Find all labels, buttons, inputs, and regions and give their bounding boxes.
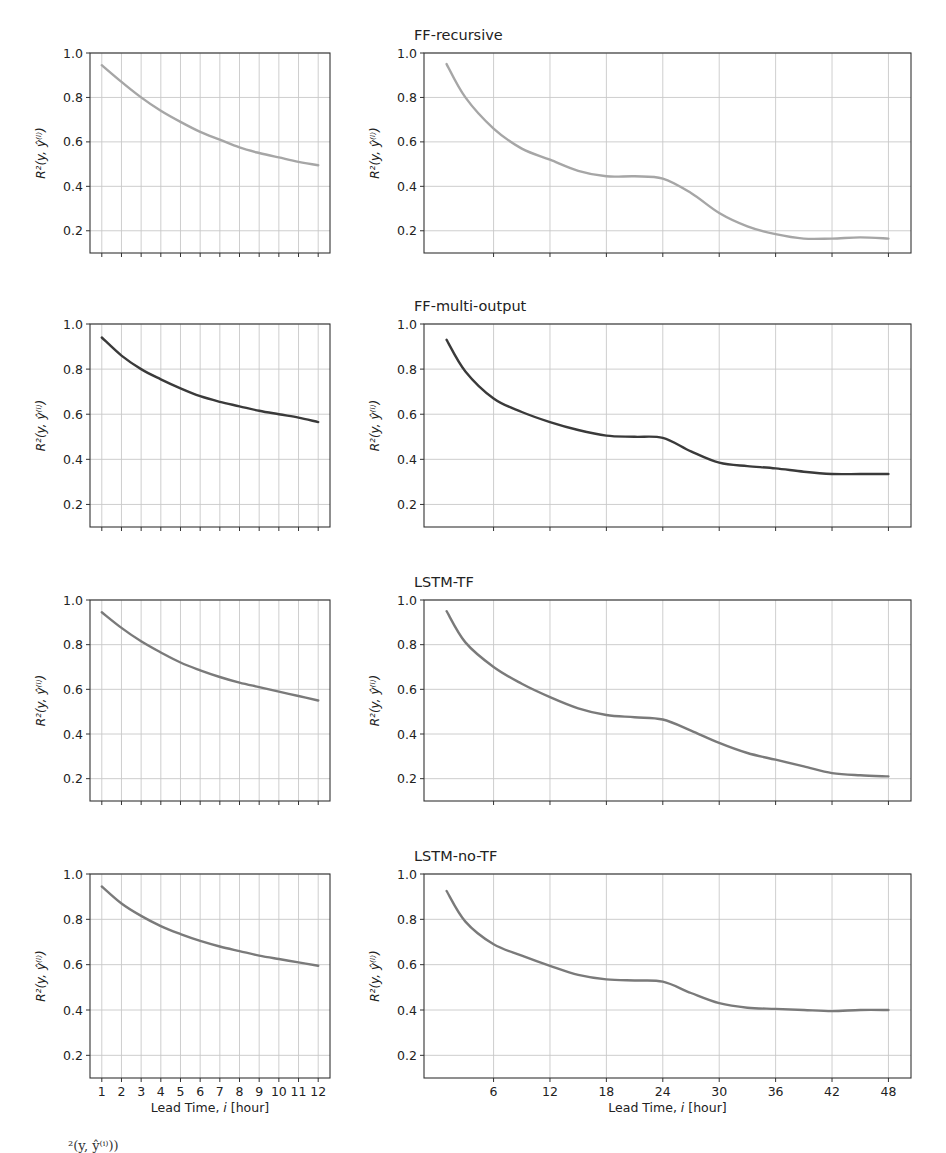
tick-marks bbox=[86, 53, 318, 257]
y-axis-label: R²(y, ŷ⁽ⁱ⁾) bbox=[368, 675, 382, 726]
x-tick-label: 3 bbox=[137, 1084, 145, 1099]
y-tick-label: 1.0 bbox=[397, 593, 417, 608]
y-tick-label: 0.8 bbox=[397, 90, 417, 105]
caption-fragment: ²(y, ŷ⁽ⁱ⁾)) bbox=[68, 1138, 119, 1153]
x-tick-label: 12 bbox=[542, 1084, 558, 1099]
x-tick-label: 8 bbox=[236, 1084, 244, 1099]
y-axis-label: R²(y, ŷ⁽ⁱ⁾) bbox=[368, 950, 382, 1001]
y-tick-label: 0.6 bbox=[397, 957, 417, 972]
y-tick-label: 0.2 bbox=[397, 497, 417, 512]
y-tick-label: 0.6 bbox=[397, 682, 417, 697]
series-line bbox=[447, 611, 889, 776]
y-tick-label: 0.8 bbox=[397, 912, 417, 927]
y-tick-label: 0.6 bbox=[397, 407, 417, 422]
y-tick-label: 0.8 bbox=[63, 637, 83, 652]
y-tick-label: 0.8 bbox=[397, 637, 417, 652]
tick-marks bbox=[420, 874, 888, 1082]
x-axis-label: Lead Time, i [hour] bbox=[608, 1100, 726, 1115]
y-tick-label: 0.8 bbox=[397, 362, 417, 377]
panel-title: LSTM-TF bbox=[414, 574, 474, 590]
x-tick-label: 4 bbox=[157, 1084, 165, 1099]
chart-panel-row2-left: 0.20.40.60.81.0R²(y, ŷ⁽ⁱ⁾) bbox=[34, 317, 330, 532]
x-tick-label: 6 bbox=[196, 1084, 204, 1099]
axes-frame bbox=[424, 600, 911, 801]
series-line bbox=[102, 65, 318, 165]
y-tick-label: 0.2 bbox=[63, 223, 83, 238]
x-tick-label: 30 bbox=[711, 1084, 727, 1099]
x-tick-label: 36 bbox=[768, 1084, 784, 1099]
y-tick-label: 0.2 bbox=[63, 1048, 83, 1063]
x-tick-label: 6 bbox=[490, 1084, 498, 1099]
chart-panel-row4-left: 0.20.40.60.81.0123456789101112Lead Time,… bbox=[34, 867, 330, 1116]
y-axis-label: R²(y, ŷ⁽ⁱ⁾) bbox=[34, 675, 48, 726]
y-tick-label: 0.6 bbox=[63, 407, 83, 422]
grid-lines bbox=[90, 324, 330, 527]
y-tick-label: 0.4 bbox=[397, 452, 417, 467]
y-tick-label: 0.8 bbox=[63, 362, 83, 377]
x-tick-label: 18 bbox=[598, 1084, 614, 1099]
y-tick-label: 0.4 bbox=[63, 452, 83, 467]
series-line bbox=[102, 887, 318, 966]
grid-lines bbox=[90, 874, 330, 1078]
y-axis-label: R²(y, ŷ⁽ⁱ⁾) bbox=[368, 127, 382, 178]
series-line bbox=[102, 338, 318, 423]
chart-panel-row1-left: 0.20.40.60.81.0R²(y, ŷ⁽ⁱ⁾) bbox=[34, 46, 330, 258]
tick-marks bbox=[86, 600, 318, 805]
y-tick-label: 0.6 bbox=[63, 957, 83, 972]
series-line bbox=[447, 340, 889, 474]
axes-frame bbox=[424, 874, 911, 1078]
axes-frame bbox=[424, 324, 911, 527]
axes-frame bbox=[424, 53, 911, 253]
y-tick-label: 1.0 bbox=[63, 317, 83, 332]
x-tick-label: 10 bbox=[271, 1084, 287, 1099]
grid-lines bbox=[424, 874, 911, 1078]
panel-title: LSTM-no-TF bbox=[414, 848, 497, 864]
axes-frame bbox=[90, 53, 330, 253]
y-tick-label: 0.4 bbox=[63, 1003, 83, 1018]
y-tick-label: 1.0 bbox=[397, 46, 417, 61]
y-tick-label: 0.2 bbox=[63, 497, 83, 512]
y-tick-label: 1.0 bbox=[397, 867, 417, 882]
tick-marks bbox=[420, 324, 888, 531]
grid-lines bbox=[424, 53, 911, 253]
chart-panel-row4-right: 0.20.40.60.81.0612182430364248Lead Time,… bbox=[368, 848, 911, 1115]
y-tick-label: 0.8 bbox=[63, 90, 83, 105]
grid-lines bbox=[424, 324, 911, 527]
x-tick-label: 9 bbox=[255, 1084, 263, 1099]
tick-marks bbox=[86, 874, 318, 1082]
y-tick-label: 0.4 bbox=[63, 727, 83, 742]
y-tick-label: 1.0 bbox=[397, 317, 417, 332]
x-tick-label: 42 bbox=[824, 1084, 840, 1099]
chart-panel-row3-right: 0.20.40.60.81.0R²(y, ŷ⁽ⁱ⁾)LSTM-TF bbox=[368, 574, 911, 805]
chart-panel-row1-right: 0.20.40.60.81.0R²(y, ŷ⁽ⁱ⁾)FF-recursive bbox=[368, 27, 911, 257]
y-tick-label: 0.2 bbox=[63, 771, 83, 786]
grid-lines bbox=[424, 600, 911, 801]
y-tick-label: 0.8 bbox=[63, 912, 83, 927]
x-axis-label: Lead Time, i [hour] bbox=[151, 1100, 269, 1115]
tick-marks bbox=[420, 53, 888, 257]
y-axis-label: R²(y, ŷ⁽ⁱ⁾) bbox=[368, 400, 382, 451]
chart-panel-row3-left: 0.20.40.60.81.0R²(y, ŷ⁽ⁱ⁾) bbox=[34, 593, 330, 806]
axes-frame bbox=[90, 324, 330, 527]
x-tick-label: 24 bbox=[655, 1084, 671, 1099]
y-tick-label: 0.4 bbox=[397, 1003, 417, 1018]
panel-title: FF-recursive bbox=[414, 27, 503, 43]
y-tick-label: 1.0 bbox=[63, 867, 83, 882]
y-tick-label: 0.4 bbox=[397, 727, 417, 742]
x-tick-label: 11 bbox=[291, 1084, 307, 1099]
axes-frame bbox=[90, 874, 330, 1078]
x-tick-label: 5 bbox=[177, 1084, 185, 1099]
tick-marks bbox=[420, 600, 888, 805]
x-tick-label: 1 bbox=[98, 1084, 106, 1099]
panel-title: FF-multi-output bbox=[414, 298, 527, 314]
x-tick-label: 7 bbox=[216, 1084, 224, 1099]
y-tick-label: 0.6 bbox=[63, 682, 83, 697]
y-tick-label: 0.6 bbox=[397, 134, 417, 149]
y-axis-label: R²(y, ŷ⁽ⁱ⁾) bbox=[34, 950, 48, 1001]
x-tick-label: 12 bbox=[310, 1084, 326, 1099]
series-line bbox=[102, 612, 318, 700]
chart-panel-row2-right: 0.20.40.60.81.0R²(y, ŷ⁽ⁱ⁾)FF-multi-outpu… bbox=[368, 298, 911, 531]
y-tick-label: 1.0 bbox=[63, 593, 83, 608]
y-tick-label: 0.2 bbox=[397, 771, 417, 786]
